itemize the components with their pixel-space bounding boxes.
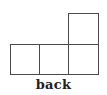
view-label: back <box>0 77 107 93</box>
grid-cell-bottom-right <box>68 44 99 75</box>
grid-cell-top-right <box>68 13 99 45</box>
grid-cell-bottom-left <box>10 44 40 75</box>
grid-cell-bottom-middle <box>39 44 69 75</box>
